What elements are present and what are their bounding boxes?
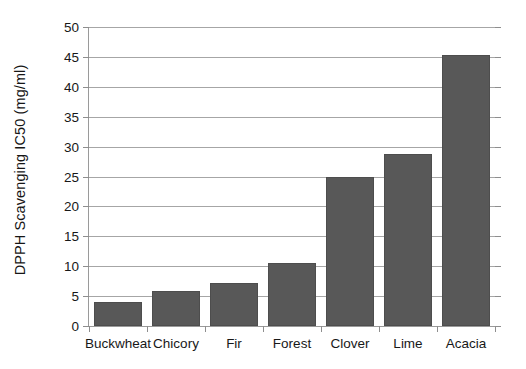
x-axis-tick [379,326,380,332]
y-axis-tick-right [495,206,501,207]
y-axis-tick-label: 30 [64,139,79,154]
bar-fir [210,283,258,326]
bar-forest [268,263,316,326]
x-axis-tick [437,326,438,332]
y-axis-title-text: DPPH Scavenging IC50 (mg/ml) [12,65,28,276]
y-axis-tick-label: 45 [64,49,79,64]
y-axis-tick-right [495,147,501,148]
x-axis-label-clover: Clover [330,336,369,351]
bar-slot [263,27,321,326]
y-axis-tick-right [495,177,501,178]
bars-group [89,27,495,326]
bar-buckwheat [94,302,142,326]
x-axis-tick [89,326,90,332]
bar-slot [147,27,205,326]
bar-lime [384,154,432,326]
y-axis-tick-label: 15 [64,229,79,244]
x-axis-tick [321,326,322,332]
y-axis-tick-label: 50 [64,20,79,35]
x-axis-label-buckwheat: Buckwheat [85,336,151,351]
bar-clover [326,177,374,326]
y-axis-tick-right [495,117,501,118]
y-axis-tick-label: 0 [71,319,79,334]
y-axis-tick-right [495,296,501,297]
bar-slot [379,27,437,326]
y-axis-tick-right [495,266,501,267]
bar-slot [89,27,147,326]
y-axis-tick-label: 35 [64,109,79,124]
x-axis-label-lime: Lime [393,336,422,351]
x-axis-label-chicory: Chicory [153,336,199,351]
bar-slot [205,27,263,326]
y-axis-tick-right [495,57,501,58]
y-axis-tick-label: 10 [64,259,79,274]
y-axis-tick-label: 40 [64,79,79,94]
y-axis-tick-label: 5 [71,289,79,304]
dpph-scavenging-bar-chart: DPPH Scavenging IC50 (mg/ml) 05101520253… [0,0,526,369]
x-axis-label-acacia: Acacia [446,336,487,351]
x-axis-label-forest: Forest [273,336,311,351]
x-axis-tick [205,326,206,332]
x-axis-label-fir: Fir [226,336,242,351]
x-axis-tick [147,326,148,332]
x-axis-tick [263,326,264,332]
plot-area: 05101520253035404550 BuckwheatChicoryFir… [88,27,495,327]
bar-slot [437,27,495,326]
x-axis-tick [495,326,496,332]
y-axis-tick-right [495,27,501,28]
y-axis-tick-label: 25 [64,169,79,184]
y-axis-tick-right [495,236,501,237]
bar-acacia [442,55,490,326]
y-axis-title: DPPH Scavenging IC50 (mg/ml) [0,0,40,340]
y-axis-tick-label: 20 [64,199,79,214]
y-axis-tick-right [495,87,501,88]
bar-slot [321,27,379,326]
bar-chicory [152,291,200,326]
